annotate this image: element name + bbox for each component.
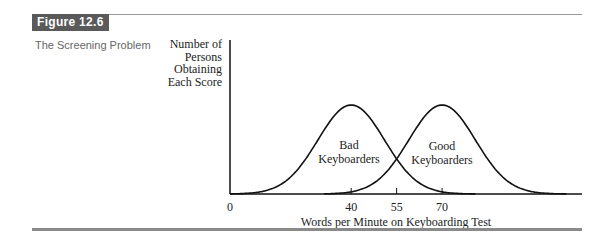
chart-plot: Bad Keyboarders Good Keyboarders 0405570… (0, 0, 611, 247)
x-axis-label: Words per Minute on Keyboarding Test (301, 215, 492, 229)
label-bad-line1: Bad (339, 138, 358, 152)
label-bad-line2: Keyboarders (318, 152, 380, 166)
x-tick-labels: 0405570 (227, 200, 448, 214)
x-tick-label: 40 (345, 200, 357, 214)
bottom-rule (32, 228, 582, 231)
x-tick-label: 0 (227, 200, 233, 214)
label-good-line2: Keyboarders (411, 153, 473, 167)
x-ticks (351, 188, 442, 194)
x-tick-label: 70 (436, 200, 448, 214)
label-good-line1: Good (429, 139, 456, 153)
x-tick-label: 55 (391, 200, 403, 214)
